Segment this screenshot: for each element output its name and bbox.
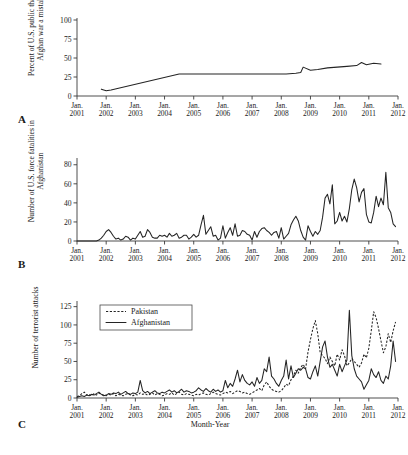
panel-a-y-axis-label: Percent of U.S. public that finds Afghan… — [27, 0, 45, 79]
x-axis-label: Month-Year — [40, 420, 380, 429]
panel-c-y-axis-label: Number of terrorist attacks — [31, 285, 40, 371]
svg-text:2008: 2008 — [274, 109, 289, 118]
svg-text:2004: 2004 — [157, 411, 172, 420]
panel-a-letter: A — [18, 113, 26, 125]
svg-text:2001: 2001 — [70, 109, 85, 118]
svg-text:40: 40 — [64, 199, 72, 208]
svg-text:80: 80 — [64, 160, 72, 169]
svg-text:2007: 2007 — [245, 411, 260, 420]
svg-text:2007: 2007 — [245, 109, 260, 118]
svg-text:2003: 2003 — [128, 411, 143, 420]
svg-text:2002: 2002 — [99, 411, 114, 420]
svg-text:Afghanistan: Afghanistan — [131, 318, 170, 327]
svg-text:2006: 2006 — [216, 411, 231, 420]
panel-b-letter: B — [18, 258, 25, 270]
svg-text:2005: 2005 — [186, 411, 201, 420]
svg-text:25: 25 — [64, 375, 72, 384]
svg-text:0: 0 — [68, 92, 72, 101]
svg-text:2010: 2010 — [332, 411, 347, 420]
svg-text:2012: 2012 — [391, 411, 406, 420]
svg-text:Pakistan: Pakistan — [131, 307, 158, 316]
svg-text:100: 100 — [60, 16, 72, 25]
panel-c-plot: 0255075100125Jan.2001Jan.2002Jan.2003Jan… — [0, 285, 408, 455]
panel-c-letter: C — [18, 418, 26, 430]
svg-text:2004: 2004 — [157, 254, 172, 263]
svg-text:2004: 2004 — [157, 109, 172, 118]
panel-b-y-axis-label: Number of U.S. force fatalities in Afgha… — [27, 119, 45, 223]
svg-text:2010: 2010 — [332, 109, 347, 118]
svg-text:2002: 2002 — [99, 109, 114, 118]
svg-text:2006: 2006 — [216, 109, 231, 118]
svg-text:2011: 2011 — [362, 411, 377, 420]
svg-text:2012: 2012 — [391, 254, 406, 263]
svg-text:2002: 2002 — [99, 254, 114, 263]
svg-text:2001: 2001 — [70, 254, 85, 263]
svg-text:2005: 2005 — [186, 254, 201, 263]
svg-text:60: 60 — [64, 180, 72, 189]
svg-text:2009: 2009 — [303, 411, 318, 420]
svg-text:50: 50 — [64, 54, 72, 63]
svg-text:2001: 2001 — [70, 411, 85, 420]
svg-text:50: 50 — [64, 357, 72, 366]
panel-c: Number of terrorist attacks C Month-Year… — [0, 285, 408, 455]
svg-text:2011: 2011 — [362, 109, 377, 118]
svg-text:2009: 2009 — [303, 254, 318, 263]
svg-text:0: 0 — [68, 237, 72, 246]
svg-text:2003: 2003 — [128, 254, 143, 263]
svg-text:2011: 2011 — [362, 254, 377, 263]
svg-text:2003: 2003 — [128, 109, 143, 118]
svg-text:2008: 2008 — [274, 411, 289, 420]
panel-b-plot: 020406080Jan.2001Jan.2002Jan.2003Jan.200… — [0, 140, 408, 285]
svg-text:75: 75 — [64, 35, 72, 44]
panel-b: Number of U.S. force fatalities in Afgha… — [0, 140, 408, 285]
panel-a: Percent of U.S. public that finds Afghan… — [0, 0, 408, 140]
svg-text:25: 25 — [64, 73, 72, 82]
svg-text:100: 100 — [60, 321, 72, 330]
panel-a-plot: 0255075100Jan.2001Jan.2002Jan.2003Jan.20… — [0, 0, 408, 140]
figure-container: Percent of U.S. public that finds Afghan… — [0, 0, 408, 455]
svg-text:125: 125 — [60, 302, 72, 311]
svg-text:75: 75 — [64, 339, 72, 348]
svg-text:2006: 2006 — [216, 254, 231, 263]
svg-text:2010: 2010 — [332, 254, 347, 263]
svg-text:2009: 2009 — [303, 109, 318, 118]
svg-text:2005: 2005 — [186, 109, 201, 118]
svg-text:2008: 2008 — [274, 254, 289, 263]
svg-text:20: 20 — [64, 218, 72, 227]
svg-text:0: 0 — [68, 394, 72, 403]
svg-text:2007: 2007 — [245, 254, 260, 263]
svg-text:2012: 2012 — [391, 109, 406, 118]
